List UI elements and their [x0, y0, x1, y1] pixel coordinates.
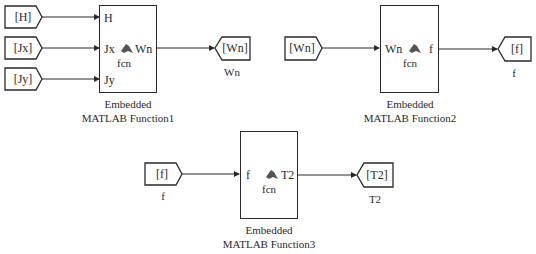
- caption-line2: MATLAB Function2: [340, 111, 480, 125]
- input-port-Wn: Wn: [385, 43, 402, 55]
- embedded-matlab-function-1[interactable]: H Jx Jy Wn fcn: [99, 5, 157, 93]
- input-port-Jx: Jx: [104, 43, 115, 55]
- goto-tag-T2-sublabel: T2: [355, 194, 395, 205]
- from-tag-H[interactable]: [H]: [8, 11, 38, 23]
- from-tag-Jy[interactable]: [Jy]: [8, 73, 38, 85]
- goto-tag-f[interactable]: [f]: [502, 43, 532, 55]
- from-tag-f[interactable]: [f]: [147, 168, 177, 180]
- caption-line1: Embedded: [340, 97, 480, 111]
- matlab-logo-icon: [120, 42, 134, 56]
- output-port-f: f: [429, 43, 433, 55]
- caption-line2: MATLAB Function1: [58, 111, 198, 125]
- input-port-f: f: [246, 169, 250, 181]
- fcn-label: fcn: [117, 58, 131, 69]
- output-port-T2: T2: [281, 169, 294, 181]
- function-3-caption: Embedded MATLAB Function3: [199, 223, 339, 251]
- output-port-Wn: Wn: [135, 43, 152, 55]
- from-tag-Wn[interactable]: [Wn]: [287, 42, 317, 54]
- function-2-caption: Embedded MATLAB Function2: [340, 97, 480, 125]
- fcn-label: fcn: [403, 58, 417, 69]
- caption-line1: Embedded: [58, 97, 198, 111]
- from-tag-Jx[interactable]: [Jx]: [8, 42, 38, 54]
- goto-tag-f-sublabel: f: [494, 68, 534, 79]
- goto-tag-Wn[interactable]: [Wn]: [219, 42, 251, 54]
- fcn-label: fcn: [262, 184, 276, 195]
- embedded-matlab-function-2[interactable]: Wn f fcn: [380, 5, 439, 93]
- from-tag-f-sublabel: f: [143, 191, 183, 202]
- input-port-Jy: Jy: [104, 74, 115, 86]
- function-1-caption: Embedded MATLAB Function1: [58, 97, 198, 125]
- goto-tag-Wn-sublabel: Wn: [212, 67, 252, 78]
- caption-line2: MATLAB Function3: [199, 237, 339, 251]
- goto-tag-T2[interactable]: [T2]: [361, 169, 393, 181]
- embedded-matlab-function-3[interactable]: f T2 fcn: [240, 131, 298, 219]
- caption-line1: Embedded: [199, 223, 339, 237]
- matlab-logo-icon: [265, 168, 279, 182]
- input-port-H: H: [104, 12, 113, 24]
- matlab-logo-icon: [408, 42, 422, 56]
